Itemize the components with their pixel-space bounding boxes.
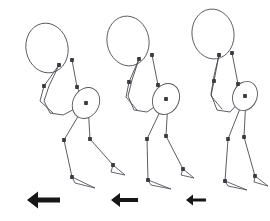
joint-marker-ankle-back [111,163,115,167]
joint-marker-elbow-front [127,80,131,84]
joint-marker-elbow-back [75,85,79,89]
joint-marker-ankle-front [70,175,74,179]
joint-marker-knee-front [145,137,149,141]
joint-marker-knee-front [62,138,66,142]
joint-marker-knee-back [88,137,92,141]
joint-marker-shoulder [230,51,234,55]
joint-marker-ankle-front [223,179,227,183]
joint-marker-elbow-front [212,79,216,83]
joint-marker-knee-back [164,134,168,138]
joint-marker-ankle-back [253,174,257,178]
joint-marker-hip [84,101,88,105]
joint-marker-neck [57,63,61,67]
joint-marker-elbow-back [156,83,160,87]
stick-figure-sequence-canvas: leftward motion arrowleftward motion arr… [0,0,270,221]
joint-marker-knee-back [242,135,246,139]
joint-marker-neck [137,57,141,61]
joint-marker-neck [217,53,221,57]
joint-marker-shoulder [150,53,154,57]
joint-marker-knee-front [226,137,230,141]
joint-marker-ankle-front [146,178,150,182]
joint-marker-hip [164,97,168,101]
joint-marker-elbow-back [236,82,240,86]
joint-marker-shoulder [70,58,74,62]
joint-marker-hip [243,94,247,98]
joint-marker-elbow-front [42,84,46,88]
joint-marker-ankle-back [181,167,185,171]
